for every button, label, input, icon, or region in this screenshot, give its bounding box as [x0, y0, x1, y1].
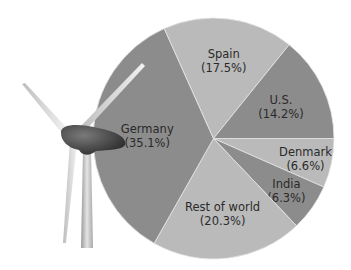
- turbine-blade-lower: [63, 140, 77, 243]
- slice-label: India: [272, 177, 300, 191]
- slice-value-label: (14.2%): [258, 107, 304, 121]
- slice-label: Rest of world: [185, 200, 260, 214]
- slice-value-label: (17.5%): [201, 61, 247, 75]
- turbine-tower: [81, 150, 93, 248]
- slice-label: Denmark: [279, 145, 332, 159]
- slice-value-label: (20.3%): [200, 214, 246, 228]
- slice-value-label: (6.6%): [286, 159, 324, 173]
- slice-label: Spain: [208, 47, 240, 61]
- slice-value-label: (35.1%): [125, 136, 171, 150]
- turbine-blade-upper-left: [22, 83, 67, 132]
- pie-chart: Denmark(6.6%)India(6.3%)Rest of world(20…: [0, 0, 351, 270]
- slice-label: Germany: [121, 122, 174, 136]
- slice-label: U.S.: [269, 93, 292, 107]
